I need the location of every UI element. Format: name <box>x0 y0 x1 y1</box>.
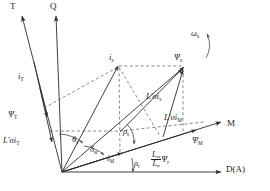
expression-Lm-over-Lsigma-psi-r: Lm Lσ Ψr <box>151 151 169 169</box>
axis-label-Q: Q <box>50 2 57 11</box>
vector-label-i-M-sub: M <box>109 158 114 164</box>
vector-label-Lsig-i-M-base: L′σi <box>164 112 177 122</box>
vector-label-psi-M-sub: M <box>198 140 203 146</box>
vector-label-i-T: iT <box>18 72 24 81</box>
vector-label-i-T-sub: T <box>20 76 23 82</box>
vector-label-omega-s: ωs <box>191 29 199 38</box>
expression-trailing-sub: r <box>167 159 169 165</box>
angle-label-rho-r: ρr <box>134 159 140 168</box>
angle-label-delta-sr: δsr <box>90 145 98 154</box>
vector-label-omega-s-sub: s <box>197 33 199 39</box>
vector-label-Lsig-i-T: L′σiT <box>3 136 19 145</box>
angle-label-theta-s: θs <box>72 135 78 144</box>
vector-label-psi-s-sub: s <box>180 57 182 63</box>
vector-label-Lsig-i-s: L′σis <box>146 92 161 101</box>
angle-label-theta-s-sub: s <box>76 139 78 145</box>
vector-psi-T-line <box>34 62 52 142</box>
axis-group <box>22 16 221 172</box>
arc-rho-r <box>132 158 133 172</box>
axis-Q <box>56 16 62 172</box>
dash-is-drop <box>119 68 120 152</box>
vector-label-i-s: is <box>109 53 113 62</box>
vector-Lsig-i-M-line <box>163 70 183 137</box>
fraction-denominator-sub: σ <box>157 163 160 168</box>
fraction-Lm-Lsigma: Lm Lσ <box>151 151 161 169</box>
angle-label-rho-r-sub: r <box>138 163 140 169</box>
vector-label-Lsig-i-M: L′σiM <box>164 113 182 122</box>
vector-label-Lsig-i-s-base: L′σi <box>146 91 159 101</box>
fraction-denominator: Lσ <box>151 159 161 168</box>
fraction-numerator-sub: m <box>156 154 160 159</box>
axis-T <box>22 16 62 172</box>
angle-label-rho-s: ρs <box>123 127 129 136</box>
fraction-numerator: Lm <box>151 151 161 159</box>
arc-omega-s <box>206 34 209 58</box>
angle-label-delta-sr-sub: sr <box>94 149 98 155</box>
figure-canvas: T Q M D(A) iT ΨT L′σiT is Ψs ωs L′σis L′… <box>0 0 270 191</box>
dash-psiT-ext <box>120 122 204 131</box>
angle-label-rho-s-sub: s <box>127 131 129 137</box>
vector-label-Lsig-i-M-sub: M <box>177 117 182 123</box>
angle-arcs <box>59 34 209 172</box>
vector-label-Lsig-i-T-sub: T <box>16 140 19 146</box>
axis-label-T: T <box>10 2 16 11</box>
vector-label-psi-s: Ψs <box>174 53 182 62</box>
vector-label-psi-T-sub: T <box>14 114 17 120</box>
vector-label-psi-M: ΨM <box>192 136 203 145</box>
vector-label-psi-T: ΨT <box>8 110 17 119</box>
axis-label-D: D(A) <box>226 165 245 174</box>
vector-label-Lsig-i-T-base: L′σi <box>3 135 16 145</box>
vector-psi-M-line <box>62 130 196 172</box>
vector-label-Lsig-i-s-sub: s <box>159 96 161 102</box>
axis-label-M: M <box>227 119 235 128</box>
vector-label-i-M: iM <box>107 154 114 163</box>
